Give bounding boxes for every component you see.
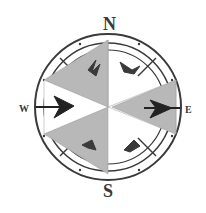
east-label: E — [185, 104, 192, 115]
compass-rose-icon: N S W E — [0, 0, 206, 213]
west-label: W — [19, 103, 29, 114]
south-label: S — [103, 181, 113, 201]
north-label: N — [103, 14, 116, 34]
